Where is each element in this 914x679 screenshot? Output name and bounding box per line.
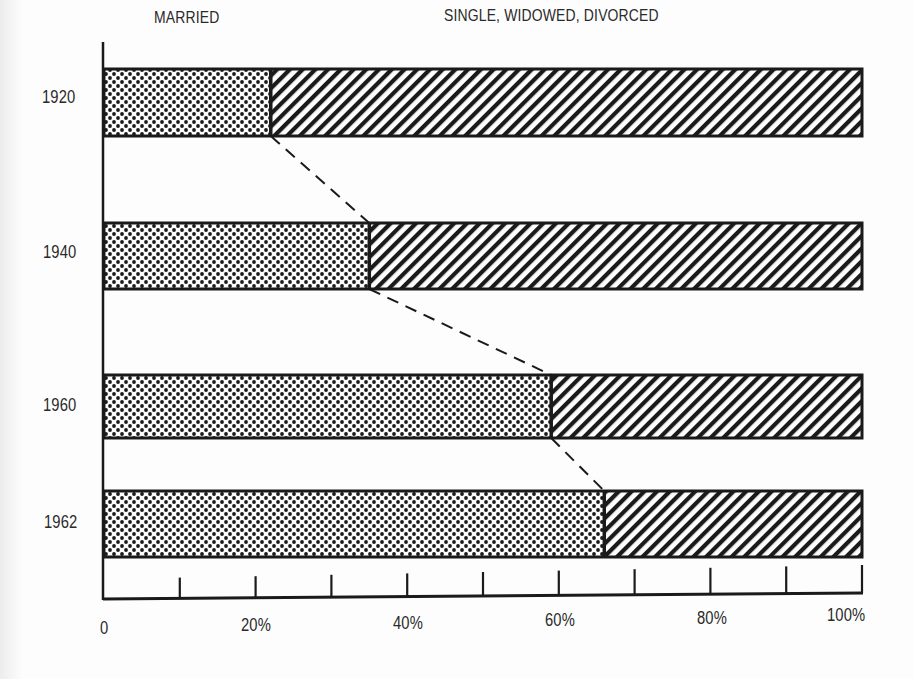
year-label-1962: 1962 [44,512,77,533]
married-segment-1940 [104,223,369,289]
legend-married-label: MARRIED [154,8,219,28]
tick-label-80: 80% [697,608,727,629]
tick-label-40: 40% [393,613,423,634]
bar-1960 [104,375,862,438]
other-segment-1960 [551,375,862,438]
tick-label-0: 0 [100,618,108,639]
bar-1920 [104,69,862,136]
stacked-bar-chart [0,0,914,679]
year-label-1940: 1940 [43,242,76,263]
legend-other-label: SINGLE, WIDOWED, DIVORCED [444,6,659,26]
married-segment-1962 [104,491,604,557]
tick-label-60: 60% [545,610,575,631]
year-label-1960: 1960 [43,395,76,416]
dashed-connector-line [369,289,551,375]
other-segment-1962 [604,491,862,557]
bar-1962 [104,491,862,557]
tick-label-20: 20% [241,615,271,636]
bar-1940 [104,223,862,289]
other-segment-1940 [369,223,862,289]
other-segment-1920 [271,69,862,136]
married-segment-1920 [104,69,271,136]
tick-label-100: 100% [827,605,865,626]
married-segment-1960 [104,375,551,438]
year-label-1920: 1920 [42,87,75,108]
dashed-connector-line [551,438,604,491]
bars-group [104,69,862,557]
dashed-connector-line [271,136,370,223]
